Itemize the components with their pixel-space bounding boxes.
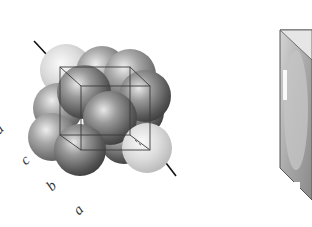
axis-label-a-left: a bbox=[0, 120, 7, 137]
crystal-structure-figure: a c b a bbox=[0, 0, 312, 227]
prism-figure bbox=[280, 30, 312, 200]
axis-label-c: c bbox=[17, 152, 33, 168]
axis-label-b: b bbox=[43, 177, 60, 194]
axis-label-a: a bbox=[70, 201, 87, 218]
